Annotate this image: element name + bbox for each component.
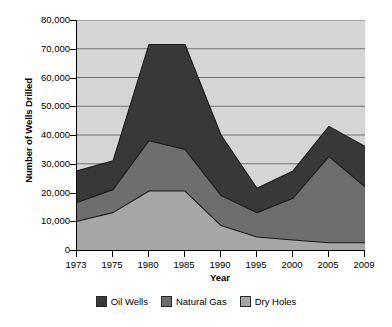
y-tick-label: 20,000 — [10, 188, 70, 198]
legend-swatch-icon — [96, 296, 107, 307]
y-tick-mark — [70, 221, 76, 222]
y-tick-label: 40,000 — [10, 130, 70, 140]
legend-label: Natural Gas — [176, 297, 227, 307]
x-tick-mark — [364, 251, 365, 257]
x-tick-mark — [328, 251, 329, 257]
y-tick-label: 70,000 — [10, 44, 70, 54]
x-axis-title: Year — [76, 272, 364, 283]
plot-inner — [77, 20, 365, 250]
y-tick-mark — [70, 164, 76, 165]
legend-swatch-icon — [161, 296, 172, 307]
y-tick-label: 10,000 — [10, 216, 70, 226]
y-tick-label: 0 — [10, 245, 70, 255]
y-tick-mark — [70, 193, 76, 194]
y-tick-mark — [70, 135, 76, 136]
y-tick-label: 80,000 — [10, 15, 70, 25]
x-tick-mark — [76, 251, 77, 257]
legend-swatch-icon — [240, 296, 251, 307]
x-tick-mark — [148, 251, 149, 257]
x-tick-mark — [112, 251, 113, 257]
legend-item-natural-gas[interactable]: Natural Gas — [161, 296, 227, 307]
x-tick-label: 2009 — [341, 259, 387, 270]
y-tick-mark — [70, 106, 76, 107]
series-areas — [77, 44, 365, 250]
y-tick-label: 30,000 — [10, 159, 70, 169]
y-tick-mark — [70, 49, 76, 50]
x-tick-mark — [256, 251, 257, 257]
x-tick-mark — [292, 251, 293, 257]
y-tick-mark — [70, 20, 76, 21]
legend-label: Oil Wells — [111, 297, 148, 307]
chart-legend: Oil WellsNatural GasDry Holes — [0, 296, 392, 307]
legend-label: Dry Holes — [255, 297, 297, 307]
y-tick-label: 60,000 — [10, 73, 70, 83]
x-tick-mark — [184, 251, 185, 257]
legend-item-oil-wells[interactable]: Oil Wells — [96, 296, 148, 307]
y-tick-label: 50,000 — [10, 101, 70, 111]
chart-svg — [77, 20, 365, 250]
plot-area — [76, 20, 365, 251]
area-chart: Number of Wells Drilled 010,00020,00030,… — [0, 0, 392, 327]
legend-item-dry-holes[interactable]: Dry Holes — [240, 296, 297, 307]
y-tick-mark — [70, 78, 76, 79]
x-tick-mark — [220, 251, 221, 257]
